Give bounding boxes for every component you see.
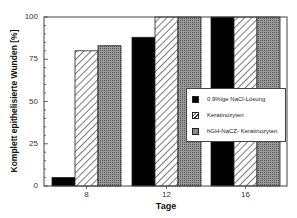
legend-swatch-solid — [192, 96, 199, 103]
legend-item-nacl: 0,9%ige NaCl-Lösung — [192, 94, 265, 104]
x-tick-label: 16 — [236, 190, 256, 199]
legend-item-hgh-keratinozyten: hGH-NaCZ- Keratinozyten — [192, 126, 277, 136]
y-tick-label: 100 — [14, 12, 38, 21]
legend: 0,9%ige NaCl-Lösung Keratinozyten hGH-Na… — [186, 88, 286, 142]
x-tick-label: 12 — [157, 190, 177, 199]
legend-label: Keratinozyten — [207, 112, 244, 118]
y-tick-label: 50 — [14, 97, 38, 106]
legend-label: hGH-NaCZ- Keratinozyten — [207, 128, 277, 134]
bar-chart: Komplett epithelisierte Wunden [%] 02550… — [0, 0, 297, 218]
x-tick-label: 8 — [77, 190, 97, 199]
legend-item-keratinozyten: Keratinozyten — [192, 110, 244, 120]
y-tick-label: 25 — [14, 139, 38, 148]
bar-12-series-0 — [132, 37, 155, 186]
legend-swatch-stipple — [192, 128, 199, 135]
y-tick-label: 0 — [14, 181, 38, 190]
y-tick-label: 75 — [14, 54, 38, 63]
bar-8-series-0 — [52, 178, 75, 186]
legend-label: 0,9%ige NaCl-Lösung — [207, 96, 265, 102]
legend-swatch-hatch — [192, 112, 199, 119]
bar-8-series-2 — [98, 46, 121, 186]
bar-8-series-1 — [75, 51, 98, 186]
x-axis-label: Tage — [146, 201, 186, 211]
bar-12-series-1 — [155, 17, 178, 186]
